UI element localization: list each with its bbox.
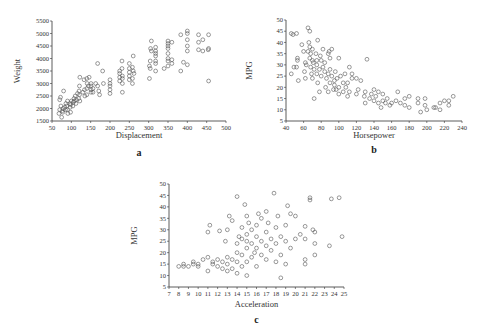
data-point (120, 67, 124, 71)
data-point (179, 33, 183, 37)
data-point (250, 255, 254, 259)
data-point (148, 59, 152, 63)
x-tick-label: 12 (214, 290, 221, 297)
data-point (59, 95, 63, 99)
data-point (235, 251, 239, 255)
data-point (350, 76, 354, 80)
data-point (304, 63, 308, 67)
data-point (216, 258, 220, 262)
scatter-panel-b: 5101520253035404550406080100120140160180… (244, 16, 467, 155)
data-point (335, 76, 339, 80)
data-point (225, 228, 229, 232)
data-point (381, 99, 385, 103)
data-point (384, 101, 388, 105)
data-point (279, 235, 283, 239)
data-point (154, 49, 158, 53)
data-point (326, 52, 330, 56)
data-point (356, 88, 360, 92)
data-point (399, 101, 403, 105)
data-point (329, 197, 333, 201)
data-point (330, 74, 334, 78)
data-point (321, 47, 325, 51)
data-point (337, 85, 341, 89)
data-point (132, 72, 136, 76)
data-point (407, 106, 411, 110)
data-point (148, 77, 152, 81)
data-point (240, 265, 244, 269)
data-point (108, 78, 112, 82)
data-point (319, 74, 323, 78)
data-point (369, 92, 373, 96)
data-point (372, 99, 376, 103)
y-axis-label: MPG (129, 226, 139, 244)
data-point (334, 88, 338, 92)
data-point (216, 265, 220, 269)
data-point (245, 239, 249, 243)
scatter-panel-a: 1500200025003000350040004500500055005010… (12, 17, 231, 158)
y-tick-label: 45 (160, 192, 167, 199)
data-point (340, 235, 344, 239)
x-tick-label: 220 (440, 124, 450, 131)
x-tick-label: 240 (457, 124, 467, 131)
y-tick-label: 30 (277, 61, 284, 68)
data-point (177, 265, 181, 269)
data-point (247, 221, 251, 225)
data-point (341, 81, 345, 85)
data-point (108, 88, 112, 92)
data-point (318, 67, 322, 71)
data-point (154, 69, 158, 73)
x-tick-label: 9 (187, 290, 190, 297)
x-tick-label: 100 (66, 124, 76, 131)
x-tick-label: 200 (422, 124, 432, 131)
data-point (372, 88, 376, 92)
data-point (337, 92, 341, 96)
x-tick-label: 17 (263, 290, 270, 297)
x-tick-label: 450 (202, 124, 212, 131)
data-point (311, 61, 315, 65)
data-point (197, 33, 201, 37)
x-tick-label: 60 (300, 124, 307, 131)
data-point (284, 239, 288, 243)
data-point (98, 93, 102, 97)
x-tick-label: 40 (283, 124, 290, 131)
data-point (108, 92, 112, 96)
data-point (207, 79, 211, 83)
data-point (240, 253, 244, 257)
y-tick-label: 5500 (36, 17, 49, 24)
data-point (225, 262, 229, 266)
data-point (166, 64, 170, 68)
data-point (318, 54, 322, 58)
data-point (154, 45, 158, 49)
data-point (170, 40, 174, 44)
data-point (274, 260, 278, 264)
data-point (131, 54, 135, 58)
data-point (131, 69, 135, 73)
x-tick-label: 13 (224, 290, 231, 297)
y-tick-label: 20 (160, 249, 167, 256)
data-point (425, 108, 429, 112)
data-point (118, 69, 122, 73)
x-tick-label: 8 (177, 290, 180, 297)
data-point (206, 255, 210, 259)
data-point (284, 223, 288, 227)
data-point (206, 269, 210, 273)
data-point (303, 61, 307, 65)
data-point (325, 76, 329, 80)
data-point (308, 196, 312, 200)
data-point (185, 44, 189, 48)
data-point (185, 63, 189, 67)
data-point (149, 39, 153, 43)
data-point (328, 56, 332, 60)
data-point (87, 75, 91, 79)
x-tick-label: 180 (404, 124, 414, 131)
data-point (166, 59, 170, 63)
data-point (443, 99, 447, 103)
data-point (303, 262, 307, 266)
data-point (96, 62, 100, 66)
x-tick-label: 80 (318, 124, 325, 131)
data-point (333, 70, 337, 74)
data-point (120, 59, 124, 63)
data-point (276, 214, 280, 218)
data-point (363, 101, 367, 105)
x-tick-label: 18 (273, 290, 280, 297)
